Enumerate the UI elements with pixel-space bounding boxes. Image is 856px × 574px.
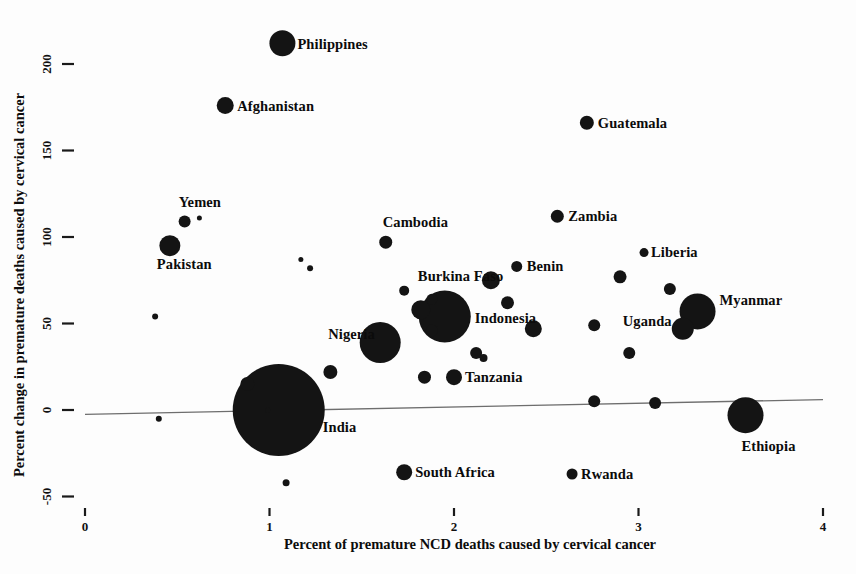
- point-label-india: India: [323, 419, 357, 435]
- bubble-zambia[interactable]: [551, 210, 564, 223]
- bubble-unlabeled[interactable]: [614, 270, 627, 283]
- y-tick-label: 0: [39, 407, 54, 414]
- point-label-nigeria: Nigeria: [328, 326, 375, 342]
- bubble-liberia[interactable]: [640, 248, 649, 257]
- x-axis-ticks: 01234: [82, 508, 827, 534]
- y-axis-title: Percent change in premature deaths cause…: [11, 92, 27, 477]
- point-label-yemen: Yemen: [179, 194, 221, 210]
- point-label-south-africa: South Africa: [415, 464, 495, 480]
- bubble-pakistan[interactable]: [159, 235, 180, 256]
- bubble-unlabeled[interactable]: [265, 408, 270, 413]
- point-label-uganda: Uganda: [623, 313, 673, 329]
- bubble-ethiopia[interactable]: [728, 397, 764, 433]
- x-tick-label: 0: [82, 519, 89, 534]
- y-tick-label: -50: [39, 488, 54, 505]
- y-tick-label: 50: [39, 317, 54, 330]
- point-label-guatemala: Guatemala: [598, 115, 668, 131]
- bubble-unlabeled[interactable]: [323, 365, 337, 379]
- bubble-uganda[interactable]: [672, 318, 694, 340]
- x-tick-label: 2: [451, 519, 458, 534]
- bubble-cambodia[interactable]: [379, 236, 392, 249]
- bubble-unlabeled[interactable]: [588, 319, 600, 331]
- bubble-guatemala[interactable]: [580, 116, 594, 130]
- x-tick-label: 3: [635, 519, 642, 534]
- y-axis-ticks: -50050100150200: [39, 54, 74, 505]
- bubble-tanzania[interactable]: [446, 369, 462, 385]
- y-tick-label: 100: [39, 227, 54, 247]
- point-label-cambodia: Cambodia: [383, 214, 449, 230]
- bubble-rwanda[interactable]: [567, 469, 578, 480]
- chart-canvas: 01234 -50050100150200 PhilippinesAfghani…: [0, 0, 856, 574]
- y-tick-label: 150: [39, 141, 54, 161]
- bubble-burkina-faso[interactable]: [426, 294, 437, 305]
- bubble-yemen[interactable]: [179, 215, 191, 227]
- bubble-unlabeled[interactable]: [501, 296, 514, 309]
- point-label-ethiopia: Ethiopia: [742, 438, 797, 454]
- bubble-unlabeled[interactable]: [649, 397, 661, 409]
- bubble-unlabeled[interactable]: [426, 324, 438, 336]
- bubble-unlabeled[interactable]: [197, 215, 202, 220]
- point-label-burkina-faso: Burkina Faso: [418, 268, 503, 284]
- x-axis-title: Percent of premature NCD deaths caused b…: [284, 536, 657, 552]
- bubble-unlabeled[interactable]: [298, 257, 303, 262]
- bubble-south-africa[interactable]: [396, 464, 412, 480]
- bubble-benin[interactable]: [511, 261, 522, 272]
- bubble-unlabeled[interactable]: [588, 395, 600, 407]
- bubble-afghanistan[interactable]: [217, 97, 234, 114]
- bubble-unlabeled[interactable]: [240, 377, 254, 391]
- bubble-chart: 01234 -50050100150200 PhilippinesAfghani…: [0, 0, 856, 574]
- point-label-rwanda: Rwanda: [581, 466, 634, 482]
- point-label-afghanistan: Afghanistan: [237, 98, 314, 114]
- bubble-unlabeled[interactable]: [156, 416, 162, 422]
- x-tick-label: 4: [820, 519, 827, 534]
- y-tick-label: 200: [39, 54, 54, 74]
- bubble-unlabeled[interactable]: [399, 286, 409, 296]
- bubble-unlabeled[interactable]: [664, 283, 676, 295]
- bubble-unlabeled[interactable]: [283, 479, 290, 486]
- point-label-benin: Benin: [527, 258, 564, 274]
- point-label-zambia: Zambia: [568, 208, 618, 224]
- x-tick-label: 1: [266, 519, 273, 534]
- point-label-tanzania: Tanzania: [465, 369, 523, 385]
- bubble-unlabeled[interactable]: [418, 371, 431, 384]
- point-label-pakistan: Pakistan: [157, 256, 212, 272]
- bubble-unlabeled[interactable]: [480, 354, 488, 362]
- bubble-unlabeled[interactable]: [411, 300, 430, 319]
- bubble-philippines[interactable]: [269, 30, 295, 56]
- point-label-myanmar: Myanmar: [720, 292, 783, 308]
- point-label-liberia: Liberia: [651, 244, 698, 260]
- point-label-philippines: Philippines: [297, 36, 368, 52]
- bubble-unlabeled[interactable]: [152, 314, 158, 320]
- point-label-indonesia: Indonesia: [475, 310, 537, 326]
- bubble-unlabeled[interactable]: [623, 347, 635, 359]
- bubble-unlabeled[interactable]: [307, 265, 313, 271]
- fit-line: [85, 400, 823, 415]
